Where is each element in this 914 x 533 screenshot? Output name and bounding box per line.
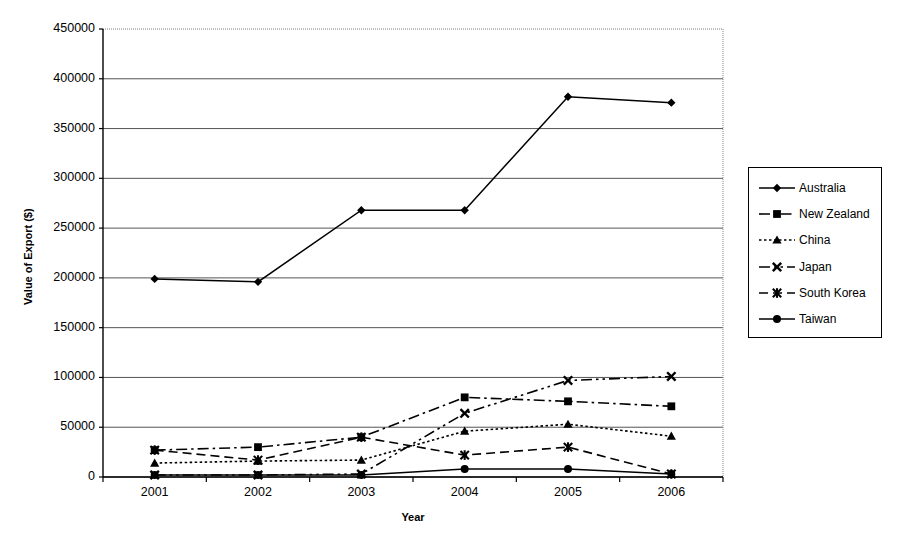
legend-label: South Korea xyxy=(799,287,866,299)
export-value-line-chart: Value of Export ($) 05000010000015000020… xyxy=(0,0,914,533)
y-tick-label: 0 xyxy=(10,470,95,483)
legend-item-south-korea: South Korea xyxy=(757,285,866,301)
x-tick-label: 2004 xyxy=(413,486,516,499)
legend-item-japan: Japan xyxy=(757,259,832,275)
legend-label: China xyxy=(799,234,830,246)
series-japan xyxy=(150,372,675,479)
legend-marker-triangle-icon xyxy=(757,233,797,247)
x-tick-label: 2006 xyxy=(620,486,723,499)
x-tick-label: 2003 xyxy=(310,486,413,499)
series-south-korea xyxy=(150,432,675,478)
y-tick-label: 50000 xyxy=(10,420,95,433)
legend-label: Japan xyxy=(799,261,832,273)
x-tick-label: 2001 xyxy=(103,486,206,499)
legend-item-taiwan: Taiwan xyxy=(757,311,836,327)
x-tick-label: 2005 xyxy=(516,486,619,499)
legend-item-new-zealand: New Zealand xyxy=(757,206,870,222)
y-tick-label: 150000 xyxy=(10,321,95,334)
x-tick-label: 2002 xyxy=(206,486,309,499)
legend-marker-square-icon xyxy=(757,207,797,221)
legend-label: Taiwan xyxy=(799,313,836,325)
y-tick-label: 200000 xyxy=(10,271,95,284)
y-tick-label: 250000 xyxy=(10,221,95,234)
legend-label: New Zealand xyxy=(799,208,870,220)
series-australia xyxy=(150,92,675,286)
chart-legend: AustraliaNew ZealandChinaJapanSouth Kore… xyxy=(748,167,882,338)
y-tick-label: 300000 xyxy=(10,171,95,184)
y-tick-label: 100000 xyxy=(10,370,95,383)
x-axis-title: Year xyxy=(103,511,723,523)
legend-item-china: China xyxy=(757,232,830,248)
series-china xyxy=(150,420,676,467)
y-tick-label: 350000 xyxy=(10,122,95,135)
legend-item-australia: Australia xyxy=(757,180,846,196)
y-tick-label: 400000 xyxy=(10,72,95,85)
legend-marker-x-icon xyxy=(757,260,797,274)
legend-label: Australia xyxy=(799,182,846,194)
series-new-zealand xyxy=(151,393,675,454)
series-taiwan xyxy=(151,465,676,479)
legend-marker-circle-icon xyxy=(757,312,797,326)
legend-marker-diamond-icon xyxy=(757,181,797,195)
y-tick-label: 450000 xyxy=(10,22,95,35)
legend-marker-asterisk-icon xyxy=(757,286,797,300)
